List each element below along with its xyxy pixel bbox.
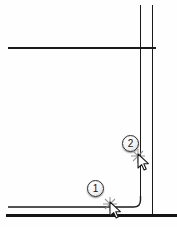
cursor-with-snap-marker-2	[131, 149, 153, 173]
callout-label-1: 1	[93, 184, 99, 194]
technical-drawing-canvas: 1 2	[0, 0, 177, 227]
callout-label-2: 2	[128, 139, 134, 149]
cursor-with-snap-marker-1	[103, 197, 125, 221]
callout-marker-1[interactable]: 1	[87, 180, 104, 197]
